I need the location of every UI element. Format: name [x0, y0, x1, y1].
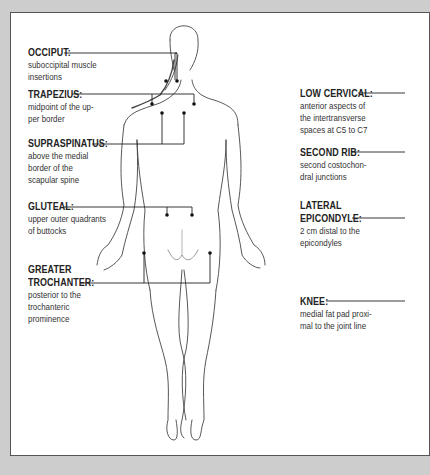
label-title: SUPRASPINATUS: [28, 137, 108, 150]
label-desc: 2 cm distal to the epicondyles [300, 225, 364, 249]
label-title: EPICONDYLE: [300, 212, 362, 225]
label-low-cervical: LOW CERVICAL: anterior aspects of the in… [300, 87, 386, 136]
label-supraspinatus: SUPRASPINATUS: above the medial border o… [28, 137, 122, 186]
label-lateral-epicondyle: LATERAL EPICONDYLE: 2 cm distal to the e… [300, 199, 373, 249]
label-title: KNEE: [300, 295, 369, 308]
label-desc: medial fat pad proxi- mal to the joint l… [300, 308, 372, 332]
label-desc: second costochon- dral junctions [300, 159, 366, 183]
label-title: TROCHANTER: [28, 276, 94, 289]
label-second-rib: SECOND RIB: second costochon- dral junct… [300, 146, 376, 183]
tender-points [142, 79, 212, 255]
label-desc: suboccipital muscle insertions [28, 59, 97, 83]
label-gluteal: GLUTEAL: upper outer quadrants of buttoc… [28, 200, 117, 237]
label-knee: KNEE: medial fat pad proxi- mal to the j… [300, 295, 382, 332]
label-title: GLUTEAL: [28, 200, 103, 213]
label-occiput: OCCIPUT: suboccipital muscle insertions [28, 46, 106, 83]
label-desc: anterior aspects of the intertransverse … [300, 100, 375, 136]
label-greater-trochanter: GREATER TROCHANTER: posterior to the tro… [28, 263, 106, 325]
label-title: OCCIPUT: [28, 46, 94, 59]
label-desc: upper outer quadrants of buttocks [28, 213, 106, 237]
braid [132, 60, 174, 108]
label-title-line1: GREATER [28, 263, 94, 276]
label-trapezius: TRAPEZIUS: midpoint of the up- per borde… [28, 88, 103, 125]
label-title: SECOND RIB: [300, 146, 364, 159]
label-title: LOW CERVICAL: [300, 87, 373, 100]
label-title-line1: LATERAL [300, 199, 362, 212]
label-desc: above the medial border of the scapular … [28, 150, 111, 186]
label-desc: midpoint of the up- per border [28, 101, 94, 125]
label-title: TRAPEZIUS: [28, 88, 91, 101]
label-desc: posterior to the trochanteric prominence [28, 289, 97, 325]
